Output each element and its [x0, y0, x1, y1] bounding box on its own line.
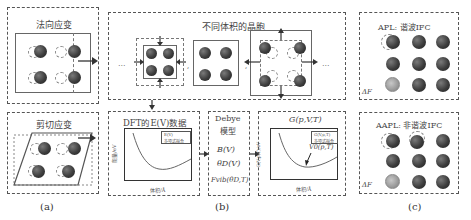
atom	[220, 69, 232, 81]
aapl-title: AAPL: 非谐波IFC	[376, 119, 442, 130]
debye-title-line1: Debye	[215, 114, 241, 123]
arrow-right-icon	[78, 133, 96, 143]
aapl-force-label: ΔF	[362, 181, 372, 189]
separator: ,	[187, 62, 189, 70]
debye-panel: Debye 模型 B(V) θD(V) Fvib(θD,T)	[208, 111, 250, 196]
ghost-atom	[55, 46, 67, 58]
debye-title-line2: 模型	[220, 125, 236, 136]
debye-bulk-modulus: B(V)	[217, 145, 235, 154]
atom	[386, 154, 400, 168]
normal-strain-panel: 法向应变	[7, 7, 99, 104]
atom	[386, 35, 400, 49]
atom	[68, 71, 81, 84]
gibbs-ylabel: G(V,p,T)/eV	[256, 142, 261, 168]
legend-entry: G(V,p,T)	[314, 132, 330, 137]
atom	[410, 135, 424, 149]
ellipsis-right: ···	[322, 61, 330, 70]
atom	[199, 47, 211, 59]
arrow-down-icon	[148, 100, 156, 110]
atom	[34, 45, 47, 58]
gibbs-chart: G(V,p,T) 多项式拟合 V0(p,T)	[270, 128, 338, 180]
arrow-right-icon	[78, 56, 98, 66]
v0-annotation: V0(p,T)	[309, 143, 333, 151]
atom	[412, 78, 426, 92]
displaced-boundary	[73, 33, 74, 93]
gibbs-xlabel: 体积/Å	[296, 185, 311, 192]
atom	[412, 154, 426, 168]
atom	[68, 142, 81, 155]
atom	[220, 47, 232, 59]
dft-title: DFT的E(V)数据	[123, 116, 187, 128]
apl-force-label: ΔF	[362, 88, 372, 96]
debye-temperature: θD(V)	[217, 159, 240, 168]
atom	[32, 165, 45, 178]
atom	[436, 78, 450, 92]
caption-b: (b)	[215, 201, 229, 212]
dft-legend: E(V) 多项式拟合	[161, 131, 191, 144]
legend-entry: 多项式拟合	[164, 138, 184, 144]
atom	[412, 35, 426, 49]
atom	[412, 175, 426, 189]
atom	[436, 175, 450, 189]
expand-arrows-icon	[240, 24, 324, 104]
ghost-atom	[55, 72, 67, 84]
atom	[386, 134, 400, 148]
compress-arrows-icon	[132, 34, 188, 90]
atom	[62, 165, 75, 178]
shear-strain-panel: 剪切应变	[7, 112, 99, 194]
debye-free-energy: Fvib(θD,T)	[211, 176, 248, 184]
atom	[412, 57, 426, 71]
shear-cell	[8, 113, 100, 195]
atom	[436, 134, 450, 148]
ellipsis-left: ···	[118, 61, 126, 70]
ghost-atom	[56, 143, 68, 155]
dft-xlabel: 体积/Å	[150, 186, 165, 193]
apl-title: APL: 谐波IFC	[378, 21, 431, 32]
caption-c: (c)	[408, 201, 421, 212]
dft-chart: E(V) 多项式拟合	[124, 128, 192, 181]
normal-strain-title: 法向应变	[36, 18, 72, 31]
displaced-atom-light	[385, 77, 400, 92]
atom	[38, 142, 51, 155]
atom	[436, 57, 450, 71]
dft-ylabel: 能量/eV	[110, 144, 117, 162]
atom	[386, 57, 400, 71]
caption-a: (a)	[40, 201, 54, 212]
atom	[199, 69, 211, 81]
gibbs-title: G(p,V,T)	[289, 115, 322, 124]
atom	[436, 154, 450, 168]
atom	[436, 35, 450, 49]
legend-entry: E(V)	[164, 132, 173, 137]
atom	[34, 71, 47, 84]
displaced-atom-light	[385, 174, 400, 189]
